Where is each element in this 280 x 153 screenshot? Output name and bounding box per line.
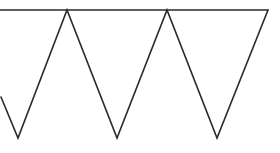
zigzag-line [1, 10, 268, 138]
zigzag-diagram [0, 0, 280, 153]
